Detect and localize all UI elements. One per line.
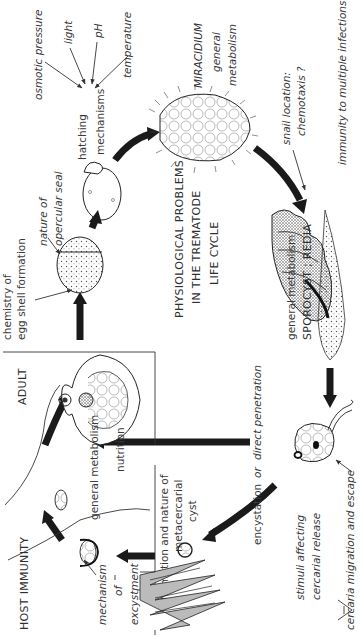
label-temperature: temperature — [121, 12, 133, 78]
ventral-sucker — [79, 393, 93, 407]
label-stimuli-affecting: stimuli affecting — [294, 515, 306, 600]
label-opercular-seal: opercular seal — [52, 171, 64, 246]
label-osmotic-pressure: osmotic pressure — [32, 9, 44, 100]
label-chemotaxis: chemotaxis ? — [295, 66, 307, 136]
arrow-miracidium-to-snail — [255, 148, 300, 200]
label-encystation: encystation — [251, 484, 263, 545]
arrow-ph — [92, 42, 97, 84]
label-egg-shell-formation: egg shell formation — [15, 238, 27, 340]
hatching-factors: osmotic pressure light pH temperature ha… — [32, 9, 133, 160]
stage-sporocyst-redia: SPOROCYST ; REDIA — [301, 224, 314, 340]
miracidium: MIRACIDIUM general metabolism — [149, 23, 258, 173]
stage-host-immunity: HOST IMMUNITY — [18, 537, 31, 630]
arrow-encystation — [210, 485, 275, 535]
label-snail-location: snail location: — [280, 72, 292, 145]
adult-general-metabolism: general metabolism — [88, 415, 100, 520]
label-excystment: excystment — [128, 562, 140, 625]
sporocyst-general-metabolism: general metabolism — [285, 235, 297, 340]
label-chemistry-of: chemistry of — [1, 274, 13, 340]
stage-adult: ADULT — [16, 368, 29, 405]
title-line-1: PHYSIOLOGICAL PROBLEMS — [173, 160, 186, 318]
label-cercarial-release: cercarial release — [310, 513, 322, 600]
juvenile-fluke — [55, 490, 67, 510]
adult-nutrition: nutrition — [114, 427, 126, 472]
label-hatching: hatching — [76, 114, 88, 160]
label-formation-nature: formation and nature of — [158, 474, 170, 600]
title-line-2: IN THE TREMATODE — [190, 191, 203, 304]
hatching-egg — [83, 162, 121, 220]
arrow-egg-to-miracidium — [115, 134, 150, 160]
stage-miracidium: MIRACIDIUM — [192, 23, 204, 88]
metacercarial-cyst — [178, 543, 192, 557]
cercaria: cercaria migration and escape stimuli af… — [294, 400, 356, 630]
label-light: light — [62, 20, 74, 44]
trematode-life-cycle-diagram: osmotic pressure light pH temperature ha… — [0, 0, 364, 639]
label-nature-of: nature of — [37, 196, 49, 246]
label-metacercarial: metacercarial — [172, 480, 184, 552]
arrow-light — [70, 48, 85, 84]
title-line-3: LIFE CYCLE — [208, 221, 221, 285]
label-or: or — [251, 467, 263, 478]
arrow-excyst-to-juvenile — [48, 520, 62, 540]
arrow-osmotic — [45, 62, 82, 88]
miracidium-metabolism: metabolism — [226, 24, 238, 86]
label-of: of — [112, 584, 124, 596]
diagram-title: PHYSIOLOGICAL PROBLEMS IN THE TREMATODE … — [173, 160, 221, 318]
snail: general metabolism SPOROCYST ; REDIA — [272, 210, 345, 360]
label-ph: pH — [92, 23, 104, 39]
label-cyst: cyst — [186, 500, 198, 522]
miracidium-general: general — [210, 32, 222, 72]
operculum-open — [84, 162, 103, 174]
label-mechanism: mechanism — [96, 564, 108, 625]
label-immunity-multiple-infections: immunity to multiple infections ? — [336, 0, 348, 165]
label-mechanisms: mechanisms — [94, 89, 106, 155]
label-direct-penetration: direct penetration — [251, 365, 263, 460]
